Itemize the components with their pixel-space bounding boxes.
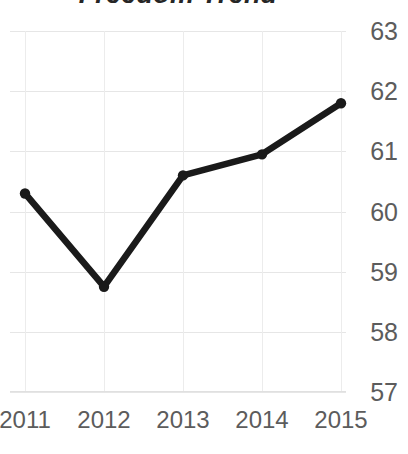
x-axis-tick-labels: 20112012201320142015	[10, 404, 346, 440]
data-point-marker	[20, 188, 30, 198]
y-tick-label: 62	[352, 76, 398, 106]
chart-title: Freedom Trend	[0, 0, 356, 10]
y-tick-label: 63	[352, 16, 398, 46]
y-tick-label: 59	[352, 257, 398, 287]
x-tick-label: 2014	[222, 404, 302, 436]
data-line-freedom-score	[25, 103, 341, 287]
y-tick-label: 57	[352, 377, 398, 407]
y-tick-label: 58	[352, 317, 398, 347]
y-tick-label: 60	[352, 197, 398, 227]
x-tick-label: 2012	[64, 404, 144, 436]
plot-area	[10, 31, 346, 392]
chart-figure: Freedom Trend 63626160595857 20112012201…	[0, 0, 408, 454]
data-point-markers	[20, 98, 346, 292]
y-tick-label: 61	[352, 136, 398, 166]
data-point-marker	[257, 149, 267, 159]
data-point-marker	[336, 98, 346, 108]
x-tick-label: 2013	[143, 404, 223, 436]
data-point-marker	[178, 170, 188, 180]
line-series-group	[10, 31, 346, 392]
data-point-marker	[99, 282, 109, 292]
x-tick-label: 2015	[301, 404, 381, 436]
gridline-horizontal	[10, 392, 346, 393]
y-axis-tick-labels: 63626160595857	[352, 31, 404, 392]
x-tick-label: 2011	[0, 404, 65, 436]
